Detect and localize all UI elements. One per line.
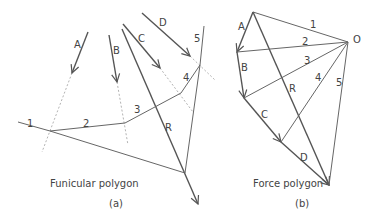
label-a: A — [74, 39, 81, 50]
ray-5: 5 — [336, 77, 342, 88]
funicular-polygon: A B C D 1 2 3 4 5 R Funicular polygon (a… — [18, 13, 215, 209]
caption-b: (b) — [295, 198, 309, 209]
label-r: R — [289, 83, 296, 94]
force-b-arrow — [109, 35, 117, 82]
label-d: D — [159, 17, 167, 28]
label-r: R — [165, 122, 172, 133]
label-a: A — [238, 21, 245, 32]
ray-4: 4 — [315, 72, 321, 83]
force-caption: Force polygon — [253, 178, 323, 189]
funicular-caption: Funicular polygon — [50, 178, 139, 189]
force-c-arrow — [123, 24, 160, 68]
label-d: D — [300, 152, 308, 163]
label-b: B — [113, 45, 120, 56]
caption-a: (a) — [109, 198, 123, 209]
label-c: C — [138, 33, 145, 44]
label-4: 4 — [183, 72, 189, 83]
label-5: 5 — [194, 33, 200, 44]
label-1: 1 — [27, 118, 33, 129]
ray-3: 3 — [304, 55, 310, 66]
force-a-vector — [237, 12, 253, 52]
force-b-vector — [237, 52, 244, 98]
label-b: B — [241, 62, 248, 73]
diagram-canvas: A B C D 1 2 3 4 5 R Funicular polygon (a… — [0, 0, 378, 221]
label-c: C — [261, 109, 268, 120]
ray-1: 1 — [310, 19, 316, 30]
force-polygon: A B C D O 1 2 3 4 5 R Force polygon (b) — [237, 12, 361, 209]
label-2: 2 — [83, 118, 89, 129]
ray-2: 2 — [302, 36, 308, 47]
pole-o: O — [353, 34, 361, 45]
resultant-vector — [253, 12, 329, 185]
label-3: 3 — [134, 104, 140, 115]
force-c-vector — [244, 98, 281, 142]
